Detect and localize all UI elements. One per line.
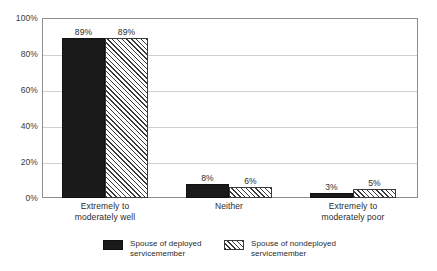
x-tick-label-extremely-to-moderately-poor: Extremely to moderately poor <box>303 201 403 222</box>
bar-value-label: 8% <box>201 173 214 183</box>
legend-item-nondeployed[interactable]: Spouse of nondeployedservicemember <box>224 239 336 258</box>
bar-nondeployed-extremely-to-moderately-poor[interactable]: 5% <box>353 189 396 198</box>
legend-label-nondeployed: Spouse of nondeployedservicemember <box>251 239 336 258</box>
y-tick-label-80: 80% <box>2 50 38 59</box>
legend-swatch-solid-icon <box>103 240 123 250</box>
x-tick-label-line1: Extremely to <box>55 201 155 212</box>
x-tick-label-line2: moderately poor <box>303 212 403 223</box>
legend-swatch-hatch-icon <box>224 240 244 250</box>
bar-group-extremely-to-moderately-poor: 3% 5% <box>310 18 416 198</box>
legend-label-line1: Spouse of nondeployed <box>251 239 336 248</box>
bar-value-label: 3% <box>325 182 338 192</box>
bar-chart: 100% 80% 60% 40% 20% 0% 89% 89% 8% <box>0 0 437 271</box>
x-tick-label-line1: Extremely to <box>303 201 403 212</box>
y-tick-label-0: 0% <box>2 194 38 203</box>
bar-deployed-extremely-to-moderately-well[interactable]: 89% <box>62 38 105 198</box>
bar-value-label: 6% <box>244 176 257 186</box>
y-tick-label-20: 20% <box>2 158 38 167</box>
legend: Spouse of deployedservicemember Spouse o… <box>0 239 437 265</box>
x-tick-label-line2: moderately well <box>55 212 155 223</box>
bar-nondeployed-neither[interactable]: 6% <box>229 187 272 198</box>
bar-value-label: 89% <box>75 27 92 37</box>
legend-label-deployed: Spouse of deployedservicemember <box>130 239 202 258</box>
legend-label-line2: servicemember <box>130 249 185 258</box>
y-tick-label-40: 40% <box>2 122 38 131</box>
x-tick-label-neither: Neither <box>179 201 279 212</box>
bar-nondeployed-extremely-to-moderately-well[interactable]: 89% <box>105 38 148 198</box>
y-axis: 100% 80% 60% 40% 20% 0% <box>0 0 38 271</box>
legend-item-deployed[interactable]: Spouse of deployedservicemember <box>103 239 202 258</box>
bar-deployed-extremely-to-moderately-poor[interactable]: 3% <box>310 193 353 198</box>
bars-layer: 89% 89% 8% 6% 3% 5% <box>42 18 418 198</box>
bar-value-label: 5% <box>368 178 381 188</box>
y-tick-label-60: 60% <box>2 86 38 95</box>
bar-group-extremely-to-moderately-well: 89% 89% <box>62 18 168 198</box>
legend-label-line2: servicemember <box>251 249 306 258</box>
x-tick-label-extremely-to-moderately-well: Extremely to moderately well <box>55 201 155 222</box>
bar-deployed-neither[interactable]: 8% <box>186 184 229 198</box>
legend-label-line1: Spouse of deployed <box>130 239 202 248</box>
y-tick-label-100: 100% <box>2 14 38 23</box>
bar-value-label: 89% <box>118 27 135 37</box>
x-tick-label-line1: Neither <box>179 201 279 212</box>
x-axis: Extremely to moderately well Neither Ext… <box>42 201 418 229</box>
bar-group-neither: 8% 6% <box>186 18 292 198</box>
